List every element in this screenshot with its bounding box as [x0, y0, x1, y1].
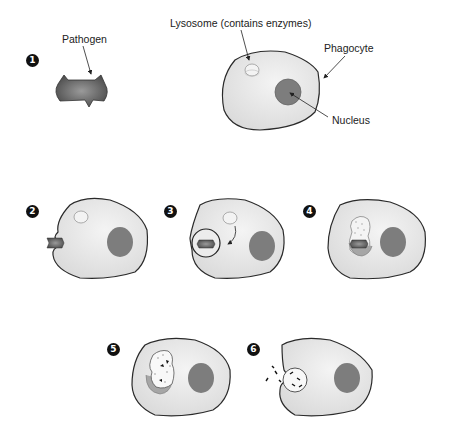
label-lysosome: Lysosome (contains enzymes) [170, 17, 311, 29]
label-pathogen: Pathogen [62, 33, 107, 45]
pathogen-shape [56, 75, 107, 107]
pathogen-shape [47, 238, 64, 248]
step-3 [190, 199, 284, 279]
pathogen-shape [350, 240, 368, 248]
pathogen-shape [197, 240, 215, 248]
step-1-pathogen [56, 46, 107, 107]
step-badge-5: 5 [107, 343, 120, 356]
step-6 [266, 338, 372, 415]
phagocytosis-diagram: Pathogen Lysosome (contains enzymes) Pha… [0, 0, 450, 448]
nucleus [334, 363, 360, 393]
phagocyte-cell [53, 198, 148, 278]
exocytosis-vesicle [283, 368, 307, 392]
phagocyte-cell [328, 200, 425, 279]
nucleus [275, 79, 301, 105]
nucleus [188, 363, 214, 393]
diagram-canvas [0, 0, 450, 448]
step-badge-6: 6 [247, 343, 260, 356]
nucleus [249, 231, 275, 261]
step-badge-1: 1 [26, 54, 39, 67]
label-phagocyte: Phagocyte [324, 42, 374, 54]
step-badge-2: 2 [26, 205, 39, 218]
pathogen-pointer [83, 46, 91, 74]
lysosome [74, 211, 88, 223]
step-badge-3: 3 [164, 205, 177, 218]
step-badge-4: 4 [303, 205, 316, 218]
nucleus [380, 227, 406, 257]
step-4 [328, 200, 425, 279]
step-5 [132, 338, 230, 415]
step-2 [47, 198, 148, 278]
lysosome [223, 212, 237, 224]
label-nucleus: Nucleus [332, 114, 370, 126]
phagocyte-cell [222, 51, 319, 130]
digestion-vesicle [150, 351, 174, 389]
phagocyte-pointer [324, 56, 345, 78]
nucleus [107, 227, 133, 257]
